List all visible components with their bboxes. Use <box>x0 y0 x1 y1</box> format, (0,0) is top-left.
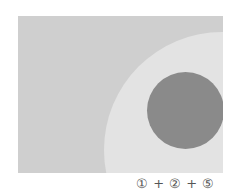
caption-formula: ① + ② + ⑤ <box>136 176 226 191</box>
diagram-panel <box>18 16 223 173</box>
inner-dark-circle <box>147 72 223 149</box>
